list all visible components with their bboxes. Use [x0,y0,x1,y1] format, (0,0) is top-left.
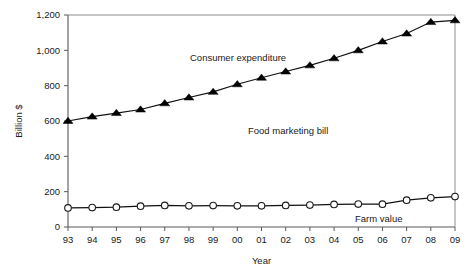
data-point-marker [331,201,338,208]
series-line-1 [68,20,455,121]
chart-container: 02004006008001,0001,200 9394959697989900… [0,0,474,275]
x-tick-label: 01 [256,234,267,245]
x-axis-title: Year [252,255,271,266]
data-point-marker [89,204,96,211]
data-point-marker [234,203,241,210]
x-tick-label: 07 [401,234,412,245]
x-axis-tick-labels: 9394959697989900010203040506070809 [63,234,461,245]
data-point-marker [353,47,363,53]
x-tick-label: 99 [208,234,219,245]
x-tick-label: 03 [305,234,316,245]
series-markers [63,17,460,212]
data-point-marker [65,205,72,212]
data-point-marker [379,201,386,208]
x-tick-label: 05 [353,234,364,245]
data-point-marker [450,17,460,23]
data-point-marker [137,203,144,210]
y-tick-label: 0 [55,221,60,232]
x-tick-label: 97 [159,234,170,245]
series-annotations: Consumer expenditureFood marketing billF… [190,52,403,224]
data-point-marker [258,203,265,210]
y-tick-label: 800 [44,80,60,91]
data-point-marker [282,202,289,209]
data-point-marker [307,202,314,209]
x-axis-ticks [68,227,455,231]
plot-frame [68,15,455,227]
x-tick-label: 96 [135,234,146,245]
data-point-marker [355,201,362,208]
y-axis-title: Billion $ [13,104,24,138]
data-point-marker [428,195,435,202]
x-tick-label: 09 [450,234,461,245]
x-tick-label: 02 [280,234,291,245]
x-tick-label: 95 [111,234,122,245]
data-point-marker [186,203,193,210]
annotation-label-2: Food marketing bill [248,125,328,136]
x-tick-label: 04 [329,234,340,245]
y-tick-label: 1,000 [36,45,60,56]
data-point-marker [452,193,459,200]
y-tick-label: 600 [44,115,60,126]
data-point-marker [403,197,410,204]
data-point-marker [210,202,217,209]
annotation-label-3: Farm value [355,213,403,224]
series-lines [68,20,455,208]
x-tick-label: 00 [232,234,243,245]
data-point-marker [113,204,120,211]
y-tick-label: 1,200 [36,9,60,20]
y-tick-label: 200 [44,186,60,197]
data-point-marker [161,202,168,209]
annotation-label-1: Consumer expenditure [190,52,286,63]
line-chart: 02004006008001,0001,200 9394959697989900… [0,0,474,275]
x-tick-label: 94 [87,234,98,245]
data-point-marker [402,30,412,36]
y-tick-label: 400 [44,151,60,162]
x-tick-label: 93 [63,234,74,245]
x-tick-label: 98 [184,234,195,245]
y-axis-tick-labels: 02004006008001,0001,200 [36,9,60,232]
x-tick-label: 08 [426,234,437,245]
x-tick-label: 06 [377,234,388,245]
